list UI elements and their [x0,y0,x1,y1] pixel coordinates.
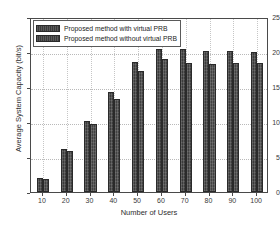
x-tick-label: 40 [101,196,125,205]
x-axis-title: Number of Users [30,208,268,217]
x-tick-label: 50 [125,196,149,205]
bar [67,151,73,192]
bar-group [251,19,263,192]
legend-item: Proposed method without virtual PRB [36,34,177,43]
bar [43,179,49,192]
bar [114,99,120,192]
legend-item: Proposed method with virtual PRB [36,24,177,33]
x-tick-label: 80 [197,196,221,205]
bar [90,124,96,192]
bar-group [203,19,215,192]
y-axis-title: Average System Capacity (bit/s) [14,19,23,179]
bar [186,63,192,193]
x-tick-label: 70 [173,196,197,205]
x-tick-label: 30 [78,196,102,205]
bar-group [227,19,239,192]
chart-legend: Proposed method with virtual PRB Propose… [33,20,181,47]
x-tick-label: 20 [54,196,78,205]
bar [233,63,239,193]
legend-label: Proposed method without virtual PRB [64,35,177,43]
legend-swatch-icon [36,25,60,32]
bar [257,63,263,193]
legend-swatch-icon [36,35,60,42]
bar [162,59,168,192]
bar [209,64,215,192]
legend-label: Proposed method with virtual PRB [64,25,168,33]
bar-group [180,19,192,192]
y-tick-mark [27,193,30,194]
chart-figure: 0510152025 102030405060708090100 Number … [0,0,280,230]
x-tick-label: 60 [149,196,173,205]
x-tick-label: 90 [220,196,244,205]
x-tick-label: 10 [30,196,54,205]
x-tick-label: 100 [244,196,268,205]
bar [138,71,144,192]
